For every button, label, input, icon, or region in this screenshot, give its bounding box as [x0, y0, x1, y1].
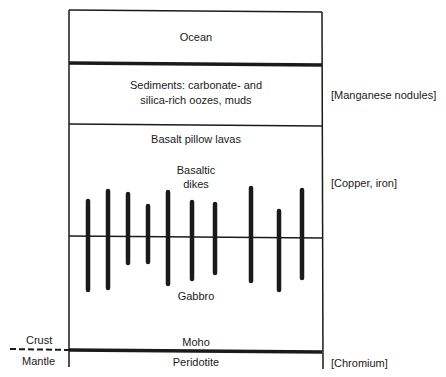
crust-label: Crust [26, 334, 52, 346]
sediments-label-line1: Sediments: carbonate- and [130, 79, 262, 91]
dikes-label-line2: dikes [183, 178, 209, 190]
dike-group [88, 188, 302, 290]
mantle-label: Mantle [22, 355, 55, 367]
moho-label: Moho [182, 336, 210, 348]
peridotite-label: Peridotite [173, 356, 219, 368]
pillow-lavas-label: Basalt pillow lavas [151, 133, 241, 145]
frame-top [69, 10, 322, 12]
crust-mantle-dashed-line [10, 349, 69, 350]
sediments-label-line2: silica-rich oozes, muds [140, 94, 251, 106]
manganese-resource-label: [Manganese nodules] [331, 89, 436, 101]
chromium-resource-label: [Chromium] [331, 357, 388, 369]
frame-right [322, 12, 323, 369]
gabbro-label: Gabbro [178, 290, 215, 302]
seafloor-line [69, 63, 322, 65]
ocean-label: Ocean [180, 31, 212, 43]
dikes-label-line1: Basaltic [177, 164, 216, 176]
copper-iron-resource-label: [Copper, iron] [331, 177, 397, 189]
sediment-base-line [69, 124, 322, 126]
moho-line [69, 350, 322, 352]
